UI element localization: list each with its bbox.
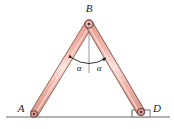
pin-joint-b (85, 20, 93, 28)
label-angle-left: α (77, 63, 82, 73)
pin-joint-a (31, 111, 38, 118)
pin-joint-d (138, 109, 145, 116)
label-support-d: D (152, 102, 161, 114)
statics-diagram-figure: B A D α α (0, 0, 174, 129)
diagram-canvas: B A D α α (0, 0, 174, 129)
label-apex-b: B (86, 2, 93, 14)
label-angle-right: α (97, 63, 102, 73)
member-ab (34, 24, 90, 114)
label-support-a: A (17, 102, 25, 114)
